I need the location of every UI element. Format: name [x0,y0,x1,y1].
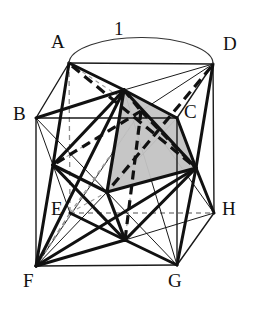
vertex-label-E: E [51,199,63,218]
vertex-label-F: F [23,271,34,290]
vertex-label-B: B [13,104,26,123]
cube-edge-A-D [69,63,213,64]
node-bottom-center [123,238,127,242]
dimension-arc [69,37,213,64]
cube-octahedron-diagram [0,0,258,325]
geometry-figure: 1 A B C D E F G H [0,0,258,325]
vertex-label-A: A [51,32,65,51]
ray-G-P [107,192,177,265]
node-left-center [51,163,55,167]
cube-edge-D-H [213,64,214,213]
vertex-label-D: D [223,34,237,53]
strut-F-N [36,240,125,266]
dimension-label: 1 [114,19,124,38]
vertex-label-H: H [222,199,236,218]
vertex-label-C: C [184,102,197,121]
node-right-center [194,166,198,170]
ray-D-T [124,64,213,90]
cube-edge-F-G [36,265,177,266]
vertex-label-G: G [168,271,182,290]
strut-R-H [196,168,214,213]
cube-edge-A-E [69,63,70,213]
node-top-center [122,88,126,92]
strut-A-T [69,63,124,90]
node-front-center [105,190,109,194]
ray-B-L [36,118,53,165]
strut-N-G [125,240,177,265]
